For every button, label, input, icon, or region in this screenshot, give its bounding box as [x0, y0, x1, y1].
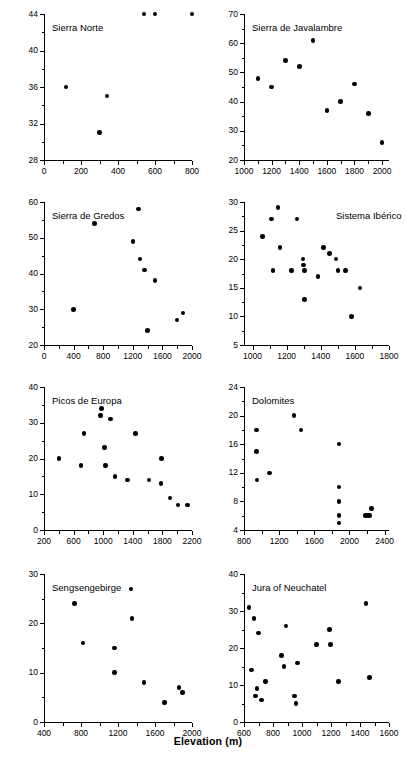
y-tick — [40, 124, 44, 125]
y-tick-label: 20 — [208, 255, 238, 264]
data-point — [97, 130, 102, 135]
data-point — [249, 668, 254, 673]
y-tick-label: 15 — [208, 283, 238, 292]
data-point — [295, 661, 300, 666]
y-tick-minor — [42, 441, 45, 442]
x-tick — [192, 161, 193, 165]
y-tick — [240, 345, 244, 346]
y-axis-line — [244, 14, 245, 160]
x-tick — [44, 161, 45, 165]
data-point — [168, 496, 173, 501]
y-tick — [240, 416, 244, 417]
y-tick-label: 20 — [208, 644, 238, 653]
y-tick-minor — [242, 145, 245, 146]
y-tick — [240, 131, 244, 132]
y-tick-minor — [242, 116, 245, 117]
y-tick-minor — [242, 58, 245, 59]
x-tick — [155, 723, 156, 727]
x-tick — [44, 723, 45, 727]
y-tick — [240, 14, 244, 15]
panel-title: Jura of Neuchatel — [252, 582, 326, 593]
data-point — [367, 513, 372, 518]
y-tick — [240, 102, 244, 103]
x-tick — [389, 723, 390, 727]
y-tick-label: 10 — [8, 668, 38, 677]
x-tick-minor — [177, 346, 178, 349]
panel-title: Sierra de Gredos — [52, 210, 124, 221]
data-point — [254, 428, 259, 433]
x-tick — [44, 531, 45, 535]
data-point — [92, 221, 97, 226]
x-tick-minor — [332, 531, 333, 534]
y-tick-label: 10 — [208, 681, 238, 690]
data-point — [64, 85, 69, 90]
y-tick-minor — [242, 245, 245, 246]
y-tick — [240, 444, 244, 445]
data-point — [336, 268, 341, 273]
y-tick-minor — [42, 69, 45, 70]
x-tick — [74, 531, 75, 535]
y-tick-label: 60 — [208, 39, 238, 48]
y-tick-label: 20 — [8, 619, 38, 628]
x-tick-label: 600 — [135, 167, 175, 176]
data-point — [256, 631, 261, 636]
y-tick-minor — [42, 599, 45, 600]
data-point — [279, 653, 284, 658]
y-tick — [240, 43, 244, 44]
x-tick-minor — [63, 723, 64, 726]
y-tick-minor — [42, 32, 45, 33]
x-tick-label: 2400 — [365, 537, 405, 546]
y-axis-line — [44, 574, 45, 722]
y-tick-label: 16 — [208, 440, 238, 449]
y-tick-minor — [42, 697, 45, 698]
y-tick-label: 0 — [208, 718, 238, 727]
data-point — [247, 605, 252, 610]
y-tick — [40, 274, 44, 275]
y-tick — [240, 473, 244, 474]
y-tick-label: 30 — [208, 198, 238, 207]
y-tick-minor — [242, 401, 245, 402]
data-point — [314, 642, 319, 647]
data-point — [325, 108, 330, 113]
data-point — [334, 257, 339, 262]
data-point — [269, 85, 274, 90]
y-axis-line — [244, 574, 245, 722]
data-point — [311, 38, 316, 43]
y-tick — [240, 316, 244, 317]
data-point — [263, 679, 268, 684]
data-point — [295, 217, 300, 222]
x-tick — [103, 531, 104, 535]
x-tick-minor — [313, 161, 314, 164]
data-point — [81, 641, 86, 646]
data-point — [72, 601, 77, 606]
panel-sistema-ib-rico: 5101520253010001200140016001800Sistema I… — [244, 202, 389, 345]
y-tick — [240, 387, 244, 388]
data-point — [366, 111, 371, 116]
x-tick — [349, 531, 350, 535]
x-tick-label: 2200 — [172, 537, 212, 546]
data-point — [301, 263, 306, 268]
x-tick — [272, 161, 273, 165]
data-point — [185, 503, 190, 508]
y-tick-label: 0 — [8, 718, 38, 727]
data-point — [349, 314, 354, 319]
x-tick — [331, 723, 332, 727]
x-tick-label: 400 — [98, 167, 138, 176]
data-point — [82, 431, 87, 436]
x-tick-minor — [137, 723, 138, 726]
data-point — [380, 140, 385, 145]
data-point — [142, 12, 147, 17]
data-point — [112, 646, 117, 651]
data-point — [105, 94, 110, 99]
x-tick-label: 800 — [172, 167, 212, 176]
y-tick-minor — [42, 405, 45, 406]
y-tick — [40, 87, 44, 88]
panel-title: Sengsengebirge — [52, 582, 121, 593]
y-tick — [40, 387, 44, 388]
x-tick — [162, 346, 163, 350]
data-point — [142, 268, 147, 273]
y-tick — [240, 685, 244, 686]
x-tick-label: 1200 — [98, 729, 138, 738]
x-tick — [287, 346, 288, 350]
